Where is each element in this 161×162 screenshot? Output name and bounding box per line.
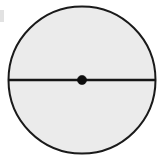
circle-diagram-figure: Circle with marked center and horizontal… [0,0,161,162]
center-point-dot [77,75,86,84]
scan-artifact-mark-icon [0,10,4,22]
diagram-canvas [0,0,161,162]
